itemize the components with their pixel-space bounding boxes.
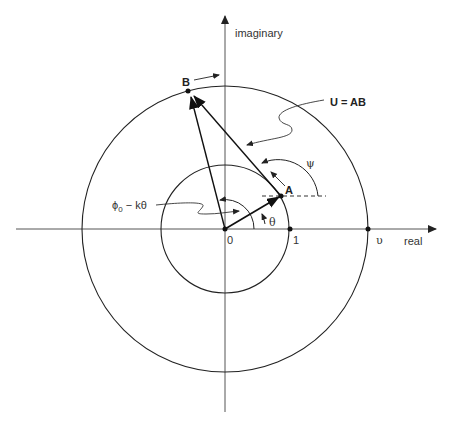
motion-arrow-A [271,172,285,186]
phi-leader [156,203,239,214]
vector-0B [191,97,225,229]
point-B-label: B [182,76,190,88]
point-B [186,89,191,94]
point-A [279,194,284,199]
theta-arc [262,214,265,224]
point-unit [288,227,293,232]
point-upsilon [366,227,371,232]
motion-arrow-B [194,75,219,80]
vector-AB [194,96,281,196]
point-origin [223,227,228,232]
psi-label: ψ [306,157,315,170]
unit-label: 1 [293,234,299,246]
point-A-label: A [285,184,293,196]
U-equals-AB-label: U = AB [330,96,366,108]
imaginary-axis-label: imaginary [235,27,283,39]
real-axis-label: real [404,235,422,247]
origin-label: 0 [227,234,233,246]
phi-label: ϕ0 − kθ [112,199,147,214]
theta-label: θ [269,216,276,229]
U-leader [247,100,324,145]
phi-rest: − kθ [123,199,147,211]
complex-plane-diagram: imaginary real 0 1 υ A B U = AB ψ θ ϕ0 −… [0,0,449,425]
upsilon-label: υ [376,234,383,247]
